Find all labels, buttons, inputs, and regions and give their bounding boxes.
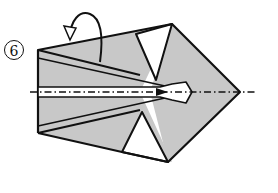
- arrow-head: [64, 26, 76, 40]
- origami-figure: [0, 0, 278, 193]
